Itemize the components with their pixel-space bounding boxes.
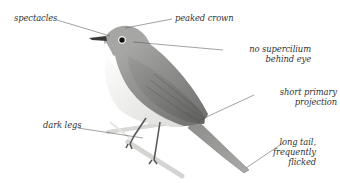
label-long-tail-line1: long tail, xyxy=(262,137,316,147)
label-short-primary-line2: projection xyxy=(248,97,337,107)
leader-spectacles xyxy=(57,20,110,36)
label-peaked-crown: peaked crown xyxy=(175,13,233,23)
label-short-primary: short primary projection xyxy=(248,87,337,107)
bird-eye xyxy=(119,37,124,42)
label-short-primary-line1: short primary xyxy=(248,87,337,97)
bird-tail xyxy=(188,118,249,173)
bird-bill xyxy=(89,36,107,41)
label-no-supercilium: no supercilium behind eye xyxy=(222,44,311,64)
label-spectacles: spectacles xyxy=(14,13,57,23)
leader-peaked-crown xyxy=(125,19,172,28)
twig xyxy=(108,122,182,176)
leader-short-primary xyxy=(200,95,254,120)
label-long-tail: long tail, frequently flicked xyxy=(262,137,316,167)
label-long-tail-line3: flicked xyxy=(262,157,316,167)
label-no-supercilium-line1: no supercilium xyxy=(222,44,311,54)
label-long-tail-line2: frequently xyxy=(262,147,316,157)
label-dark-legs: dark legs xyxy=(43,120,82,130)
label-no-supercilium-line2: behind eye xyxy=(222,54,311,64)
